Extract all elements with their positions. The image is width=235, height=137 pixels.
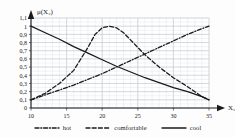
x-axis-arrow	[217, 105, 225, 111]
chart-plot-area: 00,10,20,30,40,50,60,70,80,911,110152025…	[0, 0, 235, 137]
chart-legend: hotcomfortablecool	[0, 118, 235, 137]
y-tick-label: 0,7	[20, 48, 28, 54]
y-tick-label: 0,4	[20, 73, 28, 79]
legend-item-comfortable: comfortable	[85, 124, 147, 131]
y-tick-label: 0,2	[20, 89, 28, 95]
y-tick-label: 1,1	[20, 15, 28, 21]
legend-item-cool: cool	[161, 124, 202, 131]
y-tick-label: 1	[24, 24, 27, 30]
legend-swatch-comfortable	[85, 125, 111, 131]
y-tick-label: 0,5	[20, 64, 28, 70]
legend-item-hot: hot	[34, 124, 72, 131]
legend-label-cool: cool	[190, 124, 202, 131]
y-axis-arrow	[28, 10, 34, 19]
membership-function-chart: 00,10,20,30,40,50,60,70,80,911,110152025…	[0, 0, 235, 137]
y-tick-label: 0,9	[20, 32, 28, 38]
y-tick-label: 0,3	[20, 81, 28, 87]
legend-label-hot: hot	[63, 124, 72, 131]
legend-swatch-hot	[34, 125, 60, 131]
y-tick-label: 0,8	[20, 40, 28, 46]
y-tick-label: 0,6	[20, 56, 28, 62]
legend-swatch-cool	[161, 125, 187, 131]
x-axis-label: X₂	[228, 104, 235, 112]
y-axis-label: μ(X₂)	[37, 8, 54, 16]
y-tick-label: 0	[24, 105, 27, 111]
legend-label-comfortable: comfortable	[114, 124, 147, 131]
y-tick-label: 0,1	[20, 97, 28, 103]
